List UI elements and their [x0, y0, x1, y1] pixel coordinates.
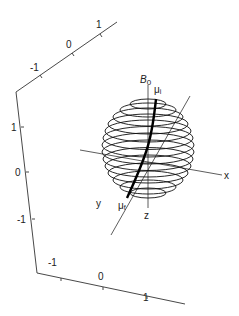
z-axis-label: z: [144, 210, 149, 221]
left-tick-neg1: -1: [17, 214, 26, 225]
final-moment-label: μf: [118, 200, 126, 211]
sphere-axes: [80, 85, 222, 235]
bottom-tick-neg1: -1: [48, 257, 57, 268]
initial-moment-label: μi: [154, 84, 162, 95]
top-tick-0: 0: [66, 39, 72, 50]
left-tick-0: 0: [15, 167, 21, 178]
bottom-tick-1: 1: [143, 292, 149, 303]
field-label: B0: [140, 74, 152, 87]
left-tick-1: 1: [11, 122, 17, 133]
x-axis-label: x: [224, 170, 229, 181]
bottom-tick-0: 0: [98, 271, 104, 282]
top-tick-neg1: -1: [30, 62, 39, 73]
y-axis-label: y: [96, 198, 101, 209]
sphere-diagram: -1 0 1 1 0 -1 -1 0 1 B0 μi μf x y z: [0, 0, 239, 316]
top-tick-1: 1: [96, 19, 102, 30]
